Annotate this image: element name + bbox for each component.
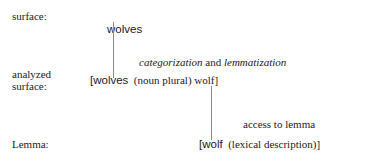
process-conjunction: and [203,56,224,68]
lemma-word: wolf [202,138,222,150]
connector-analyzed-to-lemma [211,86,212,140]
row-label-analyzed-surface: analyzedsurface: [12,68,51,92]
row-label-lemma: Lemma: [12,138,49,150]
lemmatization-diagram: surface: wolves categorization and lemma… [0,0,372,165]
lemma-gloss: (lexical description) [223,138,317,150]
row-label-surface: surface: [12,10,47,22]
analyzed-surface-node: [wolves (noun plural) wolf] [90,73,218,87]
connector-surface-to-analyzed [113,22,114,78]
lemma-bracket-close: ] [316,138,320,150]
process-term-lemmatization: lemmatization [224,56,286,68]
analyzed-bracket-close: ] [215,74,219,86]
analyzed-surface-gloss: (noun plural) wolf [128,74,214,86]
row-label-analyzed-line1: analyzed [12,68,51,80]
process-term-categorization: categorization [139,56,203,68]
process-access-text: access to lemma [243,118,315,130]
row-label-analyzed-line2: surface: [12,80,47,92]
lemma-node: [wolf (lexical description)] [199,137,320,151]
analyzed-surface-word: wolves [93,74,128,86]
